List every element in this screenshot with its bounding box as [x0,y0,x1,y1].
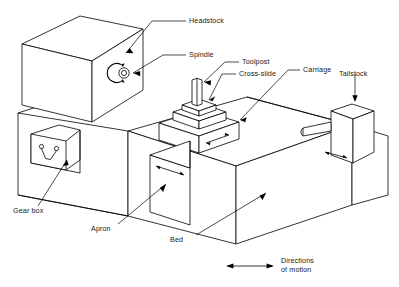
label-apron: Apron [91,225,111,233]
label-toolpost: Toolpost [242,58,270,66]
lathe-diagram: Headstock Spindle Toolpost Cross-slide C… [0,0,399,287]
label-tailstock: Tailstock [339,70,367,78]
label-gear-box: Gear box [13,207,43,215]
label-cross-slide: Cross-slide [239,70,276,78]
leader-cross-slide [209,74,236,101]
legend-arrow [226,263,274,268]
label-carriage: Carriage [303,66,331,74]
toolpost-body [182,78,216,116]
label-spindle: Spindle [189,51,214,59]
legend-line-2: of motion [281,266,311,274]
label-bed: Bed [170,236,183,244]
diagram-canvas [0,0,399,287]
apron-body [150,141,190,225]
label-headstock: Headstock [189,17,224,25]
